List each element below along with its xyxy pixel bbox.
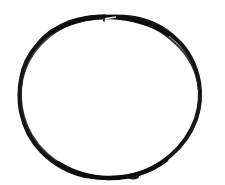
circle-sketch-svg <box>0 0 225 185</box>
sketch-canvas: Hand-drawn black circle on white paper <box>0 0 225 185</box>
paper-background <box>0 0 225 185</box>
